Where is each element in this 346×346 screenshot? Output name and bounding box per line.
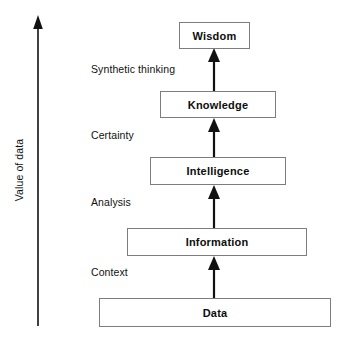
up-arrow-icon: [0, 0, 80, 346]
node-information[interactable]: Information: [127, 228, 307, 256]
node-data[interactable]: Data: [99, 298, 331, 327]
up-arrow-icon: [199, 45, 229, 97]
transition-label-analysis: Analysis: [91, 196, 131, 208]
up-arrow-icon: [199, 181, 229, 235]
transition-label-context: Context: [91, 266, 128, 278]
diagram-canvas: Value of data Wisdom Knowledge Intellige…: [0, 0, 346, 346]
node-label-wisdom: Wisdom: [193, 30, 237, 42]
node-label-knowledge: Knowledge: [188, 99, 248, 111]
node-label-information: Information: [186, 236, 249, 248]
node-intelligence[interactable]: Intelligence: [150, 157, 286, 185]
node-label-data: Data: [203, 307, 228, 319]
transition-label-certainty: Certainty: [91, 129, 134, 141]
value-axis-label: Value of data: [13, 110, 25, 230]
transition-label-synthetic-thinking: Synthetic thinking: [91, 63, 175, 75]
node-wisdom[interactable]: Wisdom: [179, 22, 250, 49]
node-knowledge[interactable]: Knowledge: [160, 91, 276, 118]
value-axis: Value of data: [0, 0, 80, 346]
node-label-intelligence: Intelligence: [187, 165, 250, 177]
